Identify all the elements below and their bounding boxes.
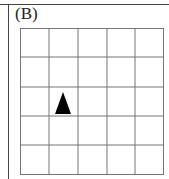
panel-label: (B): [15, 4, 38, 24]
left-border-line: [8, 4, 9, 179]
grid-lines: [20, 28, 164, 175]
grid-svg: [20, 28, 164, 175]
grid: [20, 28, 164, 175]
triangle-marker-icon: [55, 92, 71, 114]
